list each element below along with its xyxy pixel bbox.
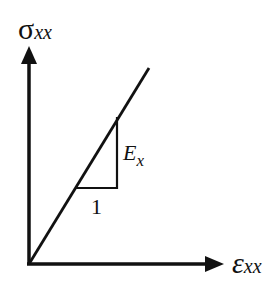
slope-run-label: 1	[91, 196, 102, 218]
y-axis-subscript: xx	[34, 21, 52, 43]
x-axis-arrowhead-icon	[205, 256, 224, 272]
slope-rise-label: Ex	[123, 142, 144, 164]
rise-subscript: x	[136, 151, 144, 170]
x-axis-label: εxx	[232, 248, 262, 278]
rise-symbol: E	[123, 140, 136, 165]
y-axis-label: σxx	[18, 14, 52, 44]
x-axis-subscript: xx	[244, 255, 262, 277]
x-axis-symbol: ε	[232, 246, 244, 279]
elastic-line	[29, 68, 149, 264]
y-axis-arrowhead-icon	[21, 46, 37, 64]
y-axis-symbol: σ	[18, 12, 34, 45]
